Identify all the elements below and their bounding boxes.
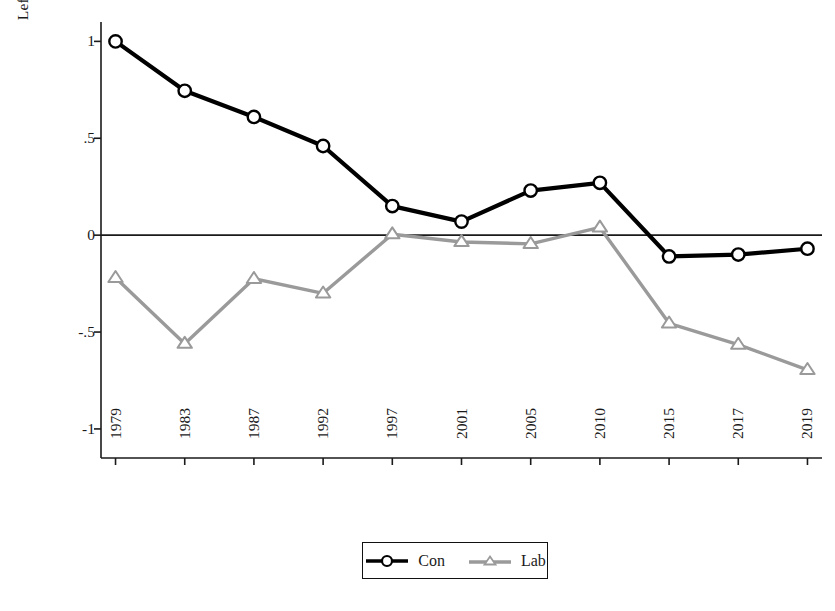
data-point-con-2015[interactable] — [663, 250, 675, 262]
data-point-lab-2010[interactable] — [593, 221, 607, 232]
circle-marker-icon — [364, 553, 410, 569]
legend-item-lab[interactable]: Lab — [467, 553, 546, 569]
data-point-con-1979[interactable] — [109, 35, 121, 47]
series-line-lab — [116, 227, 808, 369]
data-point-lab-1997[interactable] — [385, 227, 399, 238]
x-axis-tick-label-text: 2017 — [730, 408, 746, 470]
triangle-marker-icon — [467, 553, 513, 569]
x-axis-tick-label-text: 1979 — [108, 408, 124, 470]
y-axis-tick-label-text: .5 — [83, 130, 95, 146]
data-point-con-2019[interactable] — [801, 243, 813, 255]
data-point-con-1983[interactable] — [179, 85, 191, 97]
x-axis-tick-label-text: 1997 — [384, 408, 400, 470]
x-axis-tick-label-text: 2010 — [592, 408, 608, 470]
data-point-con-1997[interactable] — [386, 200, 398, 212]
x-axis-tick-label-text: 1983 — [177, 408, 193, 470]
y-axis-tick-label-text: -.5 — [78, 324, 95, 340]
data-point-con-2010[interactable] — [594, 177, 606, 189]
x-axis-tick-label-text: 1992 — [315, 408, 331, 470]
legend: Con Lab — [362, 542, 548, 579]
legend-item-con[interactable]: Con — [364, 553, 445, 569]
data-point-con-2001[interactable] — [455, 215, 467, 227]
y-axis-label: Left (−1) vs right (+1) — [14, 0, 32, 110]
y-axis-tick-label-text: -1 — [82, 421, 95, 437]
data-point-lab-1987[interactable] — [247, 272, 261, 283]
x-axis-tick-label-text: 2001 — [454, 408, 470, 470]
data-point-con-1992[interactable] — [317, 140, 329, 152]
legend-label-lab: Lab — [519, 553, 546, 569]
data-point-con-2017[interactable] — [732, 248, 744, 260]
y-axis-tick-label-text: 0 — [87, 227, 95, 243]
x-axis-tick-label-text: 2005 — [523, 408, 539, 470]
data-point-con-2005[interactable] — [524, 184, 536, 196]
y-axis-tick-label-text: 1 — [87, 33, 95, 49]
x-axis-tick-label-text: 2019 — [799, 408, 815, 470]
data-point-con-1987[interactable] — [248, 111, 260, 123]
chart-container: Left (−1) vs right (+1) 1.50-.5-1 197919… — [0, 0, 835, 611]
plot-area — [0, 0, 835, 611]
legend-label-con: Con — [416, 553, 445, 569]
x-axis-tick-label-text: 2015 — [661, 408, 677, 470]
x-axis-tick-label-text: 1987 — [246, 408, 262, 470]
data-point-lab-1979[interactable] — [108, 271, 122, 282]
